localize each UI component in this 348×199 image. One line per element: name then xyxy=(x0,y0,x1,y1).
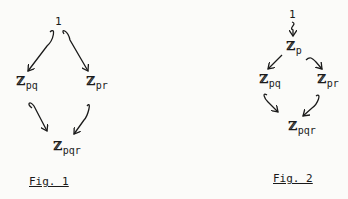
node-1: 1 xyxy=(289,9,296,20)
figure-caption: Fig. 2 xyxy=(273,172,313,185)
node-zpqr: ℤpqr xyxy=(288,120,316,136)
figure-caption: Fig. 1 xyxy=(29,175,69,188)
node-1: 1 xyxy=(55,16,62,27)
arrows-layer xyxy=(0,0,348,199)
arrow-1-to-zpr xyxy=(63,31,88,71)
arrow-zpq-to-zpqr xyxy=(264,94,278,112)
arrow-zp-to-zpr xyxy=(306,58,322,69)
node-zpr: ℤpr xyxy=(317,73,339,89)
arrow-zpr-to-zpqr xyxy=(74,105,89,134)
node-zpqr: ℤpqr xyxy=(53,140,81,156)
node-zp: ℤp xyxy=(286,40,302,56)
arrow-zp-to-zpq xyxy=(268,55,282,69)
node-zpq: ℤpq xyxy=(259,73,281,89)
node-zpr: ℤpr xyxy=(86,75,108,91)
arrow-zpq-to-zpqr xyxy=(29,103,47,131)
arrow-zpr-to-zpqr xyxy=(303,95,319,116)
arrow-1-to-zp xyxy=(292,22,294,36)
arrow-1-to-zpq xyxy=(28,31,54,71)
node-zpq: ℤpq xyxy=(16,75,38,91)
